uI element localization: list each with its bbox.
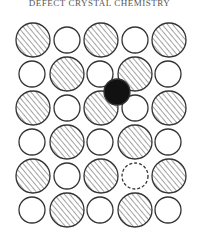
anion-atom xyxy=(152,91,186,125)
anion-atom xyxy=(152,159,186,193)
anion-atom xyxy=(16,159,50,193)
cation-atom xyxy=(19,61,45,87)
cation-atom xyxy=(122,27,148,53)
cation-atom xyxy=(19,129,45,155)
cation-atom xyxy=(54,163,80,189)
cation-atom xyxy=(155,197,181,223)
anion-atom xyxy=(84,159,118,193)
anion-atom xyxy=(118,193,152,227)
anion-atom xyxy=(50,57,84,91)
anion-atom xyxy=(152,23,186,57)
cation-atom xyxy=(54,27,80,53)
interstitial-atom xyxy=(104,79,130,105)
cation-atom xyxy=(19,197,45,223)
vacancy-site xyxy=(122,163,148,189)
anion-atom xyxy=(50,125,84,159)
anion-atom xyxy=(84,23,118,57)
cation-atom xyxy=(87,197,113,223)
anion-atom xyxy=(16,23,50,57)
anion-atom xyxy=(16,91,50,125)
cation-atom xyxy=(54,95,80,121)
cation-atom xyxy=(87,129,113,155)
anion-atom xyxy=(118,125,152,159)
cation-atom xyxy=(155,129,181,155)
cation-atom xyxy=(155,61,181,87)
crystal-lattice-diagram xyxy=(0,0,199,243)
anion-atom xyxy=(50,193,84,227)
